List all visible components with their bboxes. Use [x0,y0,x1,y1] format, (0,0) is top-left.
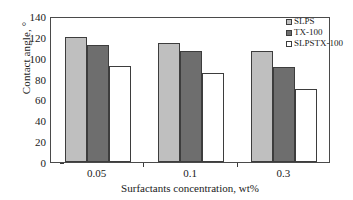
y-tick-label: 100 [14,54,46,64]
legend-item-tx-100[interactable]: TX-100 [286,27,343,38]
bar-slps-0.05 [65,37,87,162]
y-axis-tick-labels: 020406080100120140 [14,17,46,163]
y-tick-label: 60 [14,95,46,105]
y-tick-label: 0 [14,158,46,168]
legend-swatch-icon [286,19,292,25]
x-tick-mark [237,163,238,167]
legend-item-slps[interactable]: SLPS [286,16,343,27]
bar-tx-100-0.3 [273,67,295,162]
legend: SLPSTX-100SLPSTX-100 [286,16,343,49]
legend-item-slpstx-100[interactable]: SLPSTX-100 [286,38,343,49]
y-tick-label: 140 [14,12,46,22]
bar-group [144,18,237,162]
legend-label: SLPSTX-100 [294,38,343,49]
legend-swatch-icon [286,41,292,47]
bar-tx-100-0.05 [87,45,109,162]
bar-slps-0.3 [251,51,273,162]
x-tick-label: 0.3 [253,167,313,179]
bar-slps-0.1 [158,43,180,162]
y-tick-label: 80 [14,75,46,85]
legend-label: SLPS [294,16,315,27]
x-tick-label: 0.1 [160,167,220,179]
y-tick-label: 40 [14,116,46,126]
legend-swatch-icon [286,30,292,36]
y-tick-mark [60,163,64,164]
x-tick-mark [143,163,144,167]
bar-group [51,18,144,162]
y-tick-label: 20 [14,137,46,147]
legend-label: TX-100 [294,27,323,38]
x-tick-label: 0.05 [67,167,127,179]
x-axis-title: Surfactants concentration, wt% [50,182,330,194]
bar-chart-figure: Contact angle, ° 020406080100120140 0.05… [0,0,353,200]
bar-tx-100-0.1 [180,51,202,162]
bar-slpstx-100-0.1 [202,73,224,162]
bar-slpstx-100-0.3 [295,89,317,162]
bar-slpstx-100-0.05 [109,66,131,162]
y-tick-label: 120 [14,33,46,43]
